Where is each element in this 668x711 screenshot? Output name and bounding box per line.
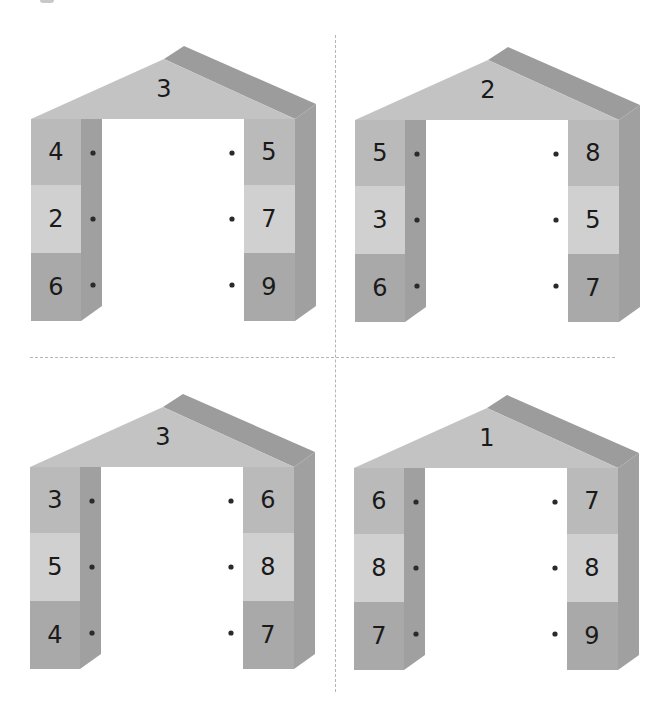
roof-number: 2 [458, 76, 518, 104]
right-number-1: 6 [243, 486, 293, 514]
left-dot-1 [413, 499, 418, 504]
right-dot-1 [553, 151, 558, 156]
number-house-3: 3 3 5 4 6 8 7 [20, 392, 320, 682]
right-number-3: 7 [243, 621, 293, 649]
right-number-3: 9 [567, 622, 617, 650]
vertical-dashed-divider [335, 35, 336, 692]
left-dot-3 [89, 630, 94, 635]
right-number-2: 7 [244, 205, 294, 233]
left-dot-3 [414, 283, 419, 288]
left-dot-1 [414, 151, 419, 156]
left-number-2: 2 [31, 205, 81, 233]
right-dot-3 [228, 630, 233, 635]
left-number-3: 7 [354, 622, 404, 650]
left-number-1: 3 [30, 486, 80, 514]
right-dot-3 [229, 282, 234, 287]
left-dot-1 [89, 498, 94, 503]
left-number-1: 5 [355, 139, 405, 167]
left-dot-3 [413, 631, 418, 636]
left-dot-2 [90, 216, 95, 221]
left-dot-1 [90, 150, 95, 155]
right-number-2: 8 [567, 554, 617, 582]
right-side-face [619, 105, 640, 322]
left-number-2: 8 [354, 554, 404, 582]
right-dot-2 [228, 564, 233, 569]
left-number-1: 6 [354, 487, 404, 515]
cropped-shape-fragment [40, 0, 54, 3]
roof-number: 3 [133, 423, 193, 451]
number-house-1: 3 4 2 6 5 7 9 [21, 44, 321, 334]
left-dot-2 [89, 564, 94, 569]
horizontal-dashed-divider [30, 357, 615, 358]
left-dot-3 [90, 282, 95, 287]
right-dot-3 [552, 631, 557, 636]
roof-number: 3 [134, 75, 194, 103]
right-side-face [295, 104, 316, 321]
left-number-2: 5 [30, 553, 80, 581]
right-number-1: 8 [568, 139, 618, 167]
right-number-3: 9 [244, 273, 294, 301]
right-dot-1 [552, 499, 557, 504]
left-number-3: 6 [355, 274, 405, 302]
right-number-1: 7 [567, 487, 617, 515]
right-number-2: 5 [568, 206, 618, 234]
left-dot-2 [414, 217, 419, 222]
right-number-2: 8 [243, 553, 293, 581]
right-dot-2 [229, 216, 234, 221]
right-dot-1 [228, 498, 233, 503]
left-number-2: 3 [355, 206, 405, 234]
left-number-3: 4 [30, 621, 80, 649]
right-side-face [618, 453, 639, 670]
number-house-4: 1 6 8 7 7 8 9 [344, 393, 644, 683]
right-side-face [294, 452, 315, 669]
roof-number: 1 [457, 424, 517, 452]
right-number-3: 7 [568, 274, 618, 302]
left-number-1: 4 [31, 138, 81, 166]
number-house-2: 2 5 3 6 8 5 7 [345, 45, 645, 335]
right-dot-2 [552, 565, 557, 570]
right-dot-2 [553, 217, 558, 222]
left-dot-2 [413, 565, 418, 570]
right-number-1: 5 [244, 138, 294, 166]
right-dot-1 [229, 150, 234, 155]
right-dot-3 [553, 283, 558, 288]
left-number-3: 6 [31, 273, 81, 301]
